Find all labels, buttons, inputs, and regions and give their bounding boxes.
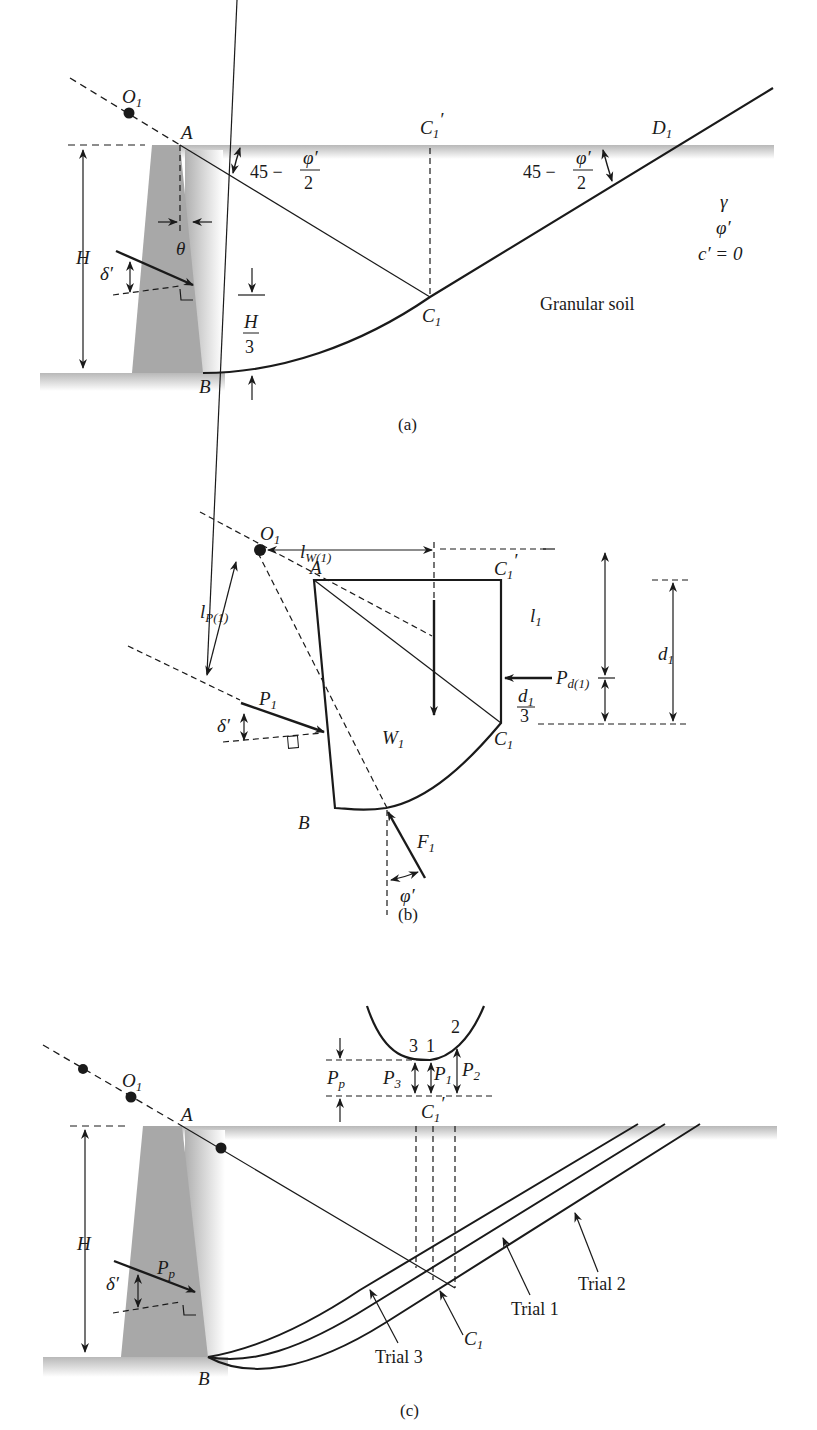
angle-den-left: 2: [304, 173, 313, 193]
angle-phi-right: φ′: [576, 147, 592, 168]
label-b-c: B: [198, 1368, 210, 1389]
label-d1: d1: [658, 643, 674, 667]
label-c1prime-a: C1′: [420, 109, 444, 141]
label-p3: P3: [382, 1067, 402, 1091]
label-h-c: H: [76, 1233, 92, 1254]
panel-c: O1 A B H δ′ Pp Pp P3 P1 P2 3 1 2 C1′ C1 …: [43, 1006, 777, 1420]
label-a-c: A: [179, 1104, 193, 1125]
label-b-b: B: [298, 812, 310, 833]
trial-3-surface: [208, 1124, 638, 1357]
label-delta-c: δ′: [106, 1273, 120, 1294]
label-b-a: B: [199, 376, 211, 397]
label-h3-den: 3: [245, 337, 254, 357]
angle-label-right: 45 −: [523, 162, 556, 182]
label-trial-3: Trial 3: [375, 1347, 423, 1367]
label-trial-2: Trial 2: [578, 1274, 626, 1294]
label-c1-b: C1: [494, 728, 513, 752]
label-p1-b: P1: [258, 688, 277, 712]
point-o1-b: [254, 544, 266, 556]
trial-1-surface: [208, 1124, 665, 1359]
failure-surface-a: [203, 88, 773, 373]
label-gamma: γ: [720, 191, 728, 212]
label-c1-c: C1: [464, 1328, 483, 1352]
label-d13-den: 3: [520, 706, 529, 726]
label-o1-b: O1: [260, 523, 280, 547]
label-pd1: Pd(1): [555, 667, 589, 691]
label-delta-b: δ′: [217, 715, 231, 736]
label-lp1: lP(1): [200, 601, 228, 625]
label-c1prime-b: C1′: [494, 550, 518, 582]
label-curve-3: 3: [409, 1036, 418, 1056]
label-f1: F1: [416, 831, 435, 855]
label-theta-a: θ: [176, 238, 185, 259]
ground-base-a: [40, 373, 225, 391]
label-phi-soil: φ′: [716, 217, 732, 238]
label-phi-b: φ′: [400, 885, 416, 906]
label-curve-1: 1: [426, 1036, 435, 1056]
label-h-a: H: [75, 247, 91, 268]
ground-surface-a: [180, 145, 774, 159]
caption-a: (a): [398, 415, 417, 434]
label-delta-a: δ′: [100, 263, 114, 284]
failure-wedge-b: [314, 580, 501, 810]
label-o1-a: O1: [122, 86, 142, 110]
label-lw1: lW(1): [300, 541, 331, 565]
label-trial-1: Trial 1: [511, 1299, 559, 1319]
label-h3-num: H: [243, 311, 259, 332]
caption-c: (c): [400, 1401, 419, 1420]
panel-a: O1 A B H θ δ′ H 3 45 − φ′ 2 45 − φ′ 2 C1…: [40, 78, 774, 434]
angle-phi-left: φ′: [303, 147, 319, 168]
point-o1-a: [124, 108, 135, 119]
label-p2: P2: [461, 1059, 481, 1083]
label-d1-a: D1: [651, 117, 672, 141]
label-p1-c: P1: [433, 1063, 452, 1087]
label-w1: W1: [382, 727, 404, 751]
label-granular-soil: Granular soil: [540, 294, 634, 314]
label-o1-c: O1: [122, 1070, 142, 1094]
force-p1: [241, 703, 324, 732]
label-a-a: A: [179, 122, 193, 143]
retaining-wall-diagram: O1 A B H θ δ′ H 3 45 − φ′ 2 45 − φ′ 2 C1…: [0, 0, 817, 1430]
label-c1-a: C1: [422, 305, 441, 329]
label-c1prime-c: C1′: [421, 1093, 445, 1125]
caption-b: (b): [398, 905, 418, 924]
panel-b: O1 A B C1′ C1 lW(1) lP(1) P1 δ′ W1 F1 φ′…: [128, 0, 688, 924]
angle-label-left: 45 −: [250, 162, 283, 182]
label-c-zero: c′ = 0: [698, 243, 743, 264]
trial-2-surface: [208, 1124, 700, 1369]
angle-den-right: 2: [577, 173, 586, 193]
label-l1: l1: [530, 605, 542, 629]
label-pp: Pp: [326, 1067, 346, 1091]
label-curve-2: 2: [451, 1017, 460, 1037]
